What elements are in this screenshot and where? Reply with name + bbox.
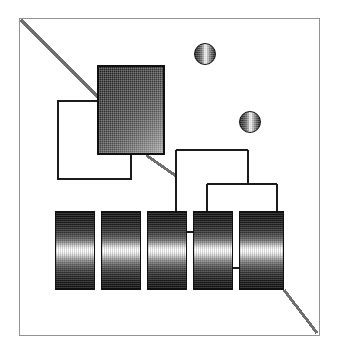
bottom-right-diagonal-line: [284, 290, 317, 333]
cylinder-bar: [101, 211, 141, 290]
square-tail-diagonal-line: [146, 155, 176, 176]
cylinder-bar: [147, 211, 187, 290]
cylinder-bar: [55, 211, 95, 290]
upper-bracket: [176, 150, 248, 212]
cylinder-bar: [193, 211, 233, 290]
shaded-block: [97, 65, 165, 155]
top-left-diagonal-line: [21, 20, 108, 107]
connector-lines: [0, 0, 341, 358]
lower-bracket: [207, 184, 277, 212]
sphere-node: [239, 111, 261, 133]
figure-canvas: [0, 0, 341, 358]
cylinder-bar: [239, 211, 284, 290]
sphere-node: [194, 43, 216, 65]
